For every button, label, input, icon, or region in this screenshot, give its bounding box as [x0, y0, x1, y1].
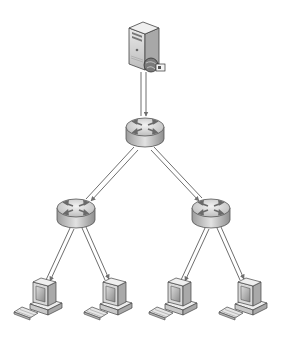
link-server-core	[141, 72, 146, 116]
router-icon-core	[126, 118, 164, 147]
link-left-pc2	[82, 227, 109, 280]
link-core-left	[86, 147, 138, 201]
router-icon-left	[57, 199, 95, 228]
network-diagram	[0, 0, 286, 345]
workstation-icon-1	[14, 278, 62, 320]
links	[46, 72, 244, 281]
workstation-icon-2	[84, 278, 132, 320]
link-right-pc3	[181, 228, 209, 281]
link-right-pc4	[217, 227, 244, 280]
link-core-right	[151, 147, 202, 201]
router-icon-right	[192, 199, 230, 228]
workstation-icon-4	[219, 278, 267, 320]
link-left-pc1	[46, 228, 74, 281]
workstation-icon-3	[149, 278, 197, 320]
server-icon	[129, 22, 165, 72]
